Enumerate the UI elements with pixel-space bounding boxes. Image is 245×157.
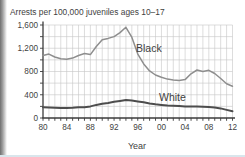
x-tick-label: 12 [228,123,238,132]
y-tick-label: 400 [24,91,38,100]
x-axis-tick-labels: 808488929600040812 [38,123,237,132]
x-tick-label: 84 [62,123,72,132]
page-bottom-edge [0,155,245,157]
y-tick-label: 1,200 [18,44,39,53]
y-tick-label: 800 [24,67,38,76]
y-tick-label: 1,600 [18,21,39,30]
series-label-white: White [159,91,186,103]
x-tick-label: 04 [181,123,191,132]
arrest-rate-chart: 04008001,2001,600 808488929600040812 Arr… [0,0,245,157]
x-tick-label: 08 [204,123,214,132]
x-tick-label: 92 [110,123,120,132]
x-tick-label: 00 [157,123,167,132]
x-axis-title: Year [128,141,146,151]
x-tick-label: 80 [38,123,48,132]
page-edge-shadow [0,0,7,157]
chart-title: Arrests per 100,000 juveniles ages 10–17 [10,7,165,17]
x-tick-label: 88 [86,123,96,132]
series-label-black: Black [136,42,162,54]
x-tick-label: 96 [133,123,143,132]
y-axis-tick-labels: 04008001,2001,600 [18,21,39,123]
y-tick-label: 0 [33,114,38,123]
screenshot-root: 04008001,2001,600 808488929600040812 Arr… [0,0,245,157]
